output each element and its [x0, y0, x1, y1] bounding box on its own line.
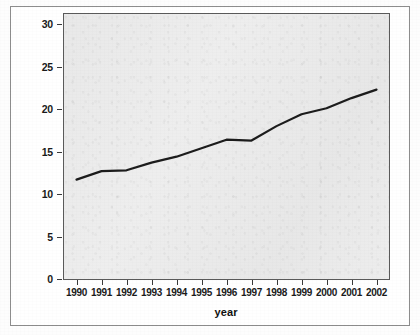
x-axis-tick-label: 1994	[166, 288, 187, 298]
y-axis-tick-label: 0	[27, 274, 53, 285]
x-axis-tick-mark	[227, 280, 228, 285]
x-axis-tick-label: 1997	[241, 288, 262, 298]
y-axis-tick-label: 20	[27, 104, 53, 115]
x-axis-title: year	[214, 307, 237, 318]
x-axis-tick-mark	[127, 280, 128, 285]
y-axis-tick-label: 25	[27, 62, 53, 73]
y-axis-tick-mark	[57, 67, 62, 68]
x-axis-tick-mark	[252, 280, 253, 285]
x-axis-tick-mark	[327, 280, 328, 285]
y-axis-tick-mark	[57, 237, 62, 238]
y-axis-tick-label: 10	[27, 189, 53, 200]
y-axis-tick-label: 5	[27, 232, 53, 243]
y-axis-tick-label: 30	[27, 19, 53, 30]
plot-area	[63, 13, 390, 280]
chart-figure: 051015202530 199019911992199319941995199…	[0, 0, 420, 335]
x-axis-tick-label: 1999	[291, 288, 312, 298]
x-axis-tick-label: 1995	[191, 288, 212, 298]
x-axis-tick-mark	[352, 280, 353, 285]
line-series-path-0	[77, 90, 377, 180]
y-axis-tick-label: 15	[27, 147, 53, 158]
x-axis-tick-mark	[152, 280, 153, 285]
x-axis-tick-label: 2001	[341, 288, 362, 298]
x-axis-tick-mark	[377, 280, 378, 285]
x-axis-tick-label: 1992	[116, 288, 137, 298]
y-axis-tick-mark	[57, 194, 62, 195]
line-series-svg	[64, 14, 389, 279]
y-axis-tick-mark	[57, 279, 62, 280]
x-axis-tick-label: 2000	[316, 288, 337, 298]
x-axis-tick-label: 1998	[266, 288, 287, 298]
x-axis-tick-mark	[277, 280, 278, 285]
x-axis-tick-mark	[177, 280, 178, 285]
x-axis-tick-mark	[202, 280, 203, 285]
x-axis-tick-label: 1990	[66, 288, 87, 298]
x-axis-tick-mark	[77, 280, 78, 285]
x-axis-tick-label: 2002	[366, 288, 387, 298]
x-axis-tick-label: 1996	[216, 288, 237, 298]
x-axis-tick-mark	[102, 280, 103, 285]
x-axis-tick-label: 1991	[91, 288, 112, 298]
x-axis-tick-label: 1993	[141, 288, 162, 298]
y-axis-tick-mark	[57, 109, 62, 110]
y-axis-tick-mark	[57, 24, 62, 25]
x-axis-tick-mark	[302, 280, 303, 285]
y-axis-tick-mark	[57, 152, 62, 153]
